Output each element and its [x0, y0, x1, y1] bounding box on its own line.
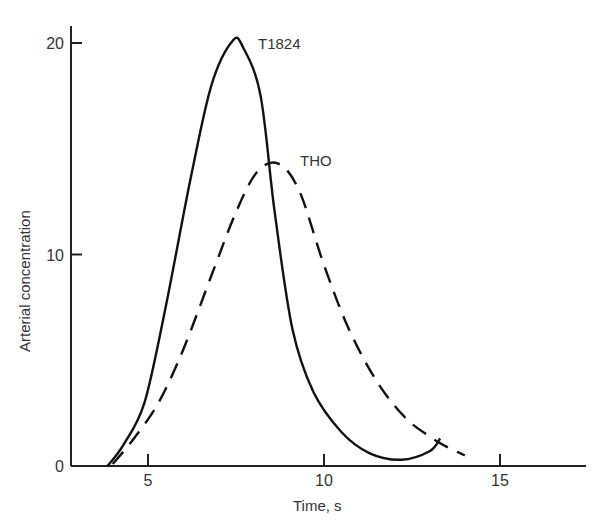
series-label-t1824: T1824 [258, 35, 301, 52]
series-group [108, 38, 465, 466]
line-chart: 01020 51015 T1824 THO Time, s Arterial c… [0, 0, 609, 528]
axes [71, 26, 586, 466]
y-ticks: 01020 [46, 35, 82, 475]
x-tick-label: 15 [491, 472, 509, 489]
x-tick-label: 10 [315, 472, 333, 489]
y-tick-label: 0 [55, 458, 64, 475]
series-label-tho: THO [300, 152, 332, 169]
y-axis-title: Arterial concentration [16, 210, 33, 352]
y-tick-label: 20 [46, 35, 64, 52]
y-tick-label: 10 [46, 247, 64, 264]
x-axis-title: Time, s [293, 497, 342, 514]
x-tick-label: 5 [144, 472, 153, 489]
x-ticks: 51015 [144, 454, 509, 489]
series-line-t1824 [108, 38, 441, 466]
